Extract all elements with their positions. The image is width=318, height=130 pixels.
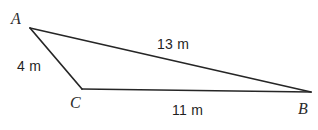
side-length-label-cb: 11 m: [172, 103, 203, 117]
vertex-label-a: A: [11, 11, 21, 27]
side-length-label-ab: 13 m: [157, 37, 189, 51]
side-length-label-ac: 4 m: [17, 59, 41, 73]
vertex-label-c: C: [70, 95, 81, 111]
triangle-figure: [0, 0, 318, 130]
vertex-label-b: B: [298, 101, 308, 117]
side-CB-line: [82, 89, 311, 92]
